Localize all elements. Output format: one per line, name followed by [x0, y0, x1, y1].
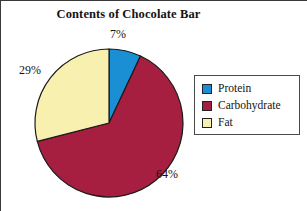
legend-item-carbohydrate: Carbohydrate	[202, 97, 299, 114]
legend-swatch-fat	[202, 118, 212, 128]
legend-item-protein: Protein	[202, 80, 299, 97]
slice-label-carbohydrate: 64%	[148, 167, 186, 182]
legend-label-carbohydrate: Carbohydrate	[218, 100, 281, 112]
pie-chart-figure: Contents of Chocolate Bar 7% 29% 64% Pro…	[0, 0, 307, 211]
chart-legend: Protein Carbohydrate Fat	[194, 75, 300, 135]
slice-label-protein: 7%	[101, 27, 135, 42]
legend-item-fat: Fat	[202, 114, 299, 131]
legend-swatch-protein	[202, 84, 212, 94]
legend-label-fat: Fat	[218, 117, 233, 129]
legend-swatch-carbohydrate	[202, 101, 212, 111]
legend-label-protein: Protein	[218, 83, 251, 95]
slice-label-fat: 29%	[12, 63, 48, 78]
